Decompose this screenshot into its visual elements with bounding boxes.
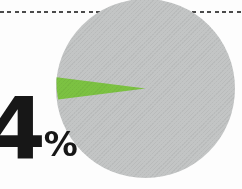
pie-chart <box>56 0 235 178</box>
callout-value: 4 % <box>0 93 78 164</box>
callout-number: 4 <box>0 93 43 164</box>
callout-percent-sign: % <box>44 127 78 161</box>
pie-chart-svg <box>56 0 235 178</box>
infographic-figure: 4 % <box>0 0 242 189</box>
